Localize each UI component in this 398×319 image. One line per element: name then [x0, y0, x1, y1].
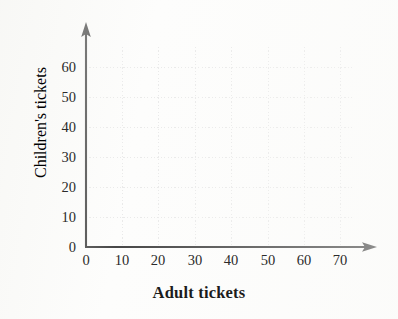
x-tick-label-60: 60 — [297, 253, 312, 268]
x-tick-label-40: 40 — [224, 253, 239, 268]
y-tick-label-10: 10 — [48, 210, 76, 225]
axis-lines — [85, 32, 367, 247]
x-tick-label-0: 0 — [82, 253, 89, 268]
y-tick-label-30: 30 — [48, 150, 76, 165]
y-axis-title: Children's tickets — [32, 0, 50, 178]
y-tick-label-50: 50 — [48, 90, 76, 105]
x-tick-label-70: 70 — [333, 253, 348, 268]
grid-lines — [86, 47, 352, 247]
y-tick-label-20: 20 — [48, 180, 76, 195]
x-tick-label-50: 50 — [261, 253, 276, 268]
x-axis-title: Adult tickets — [0, 283, 398, 303]
y-tick-label-60: 60 — [48, 60, 76, 75]
y-tick-label-0: 0 — [48, 240, 76, 255]
x-tick-label-10: 10 — [115, 253, 130, 268]
x-tick-label-30: 30 — [188, 253, 203, 268]
chart-figure: 0 10 20 30 40 50 60 0 10 20 30 40 50 60 … — [0, 0, 398, 319]
y-tick-label-40: 40 — [48, 120, 76, 135]
x-tick-label-20: 20 — [151, 253, 166, 268]
